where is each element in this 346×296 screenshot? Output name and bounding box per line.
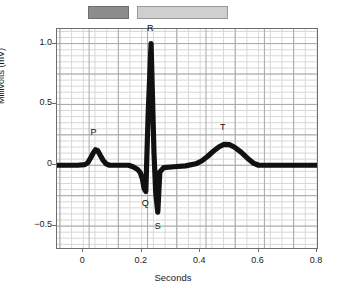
wave-label-p: P	[91, 127, 97, 137]
dark-phase-bar	[88, 6, 129, 19]
y-tick-mark	[52, 43, 56, 44]
y-tick-label: 0	[22, 158, 52, 168]
ecg-plot-svg	[57, 29, 317, 248]
wave-label-r: R	[147, 23, 154, 33]
x-tick-mark	[199, 248, 200, 252]
y-tick-mark	[52, 103, 56, 104]
light-phase-bar	[137, 6, 228, 19]
y-tick-mark	[52, 225, 56, 226]
y-tick-label: −0.5	[22, 219, 52, 229]
ecg-figure: 1.00.50−0.500.20.40.60.8 PQRST Millivolt…	[0, 0, 346, 296]
x-axis-label: Seconds	[0, 272, 346, 283]
y-tick-label: 0.5	[22, 97, 52, 107]
wave-label-q: Q	[142, 198, 149, 208]
plot-area	[56, 28, 318, 249]
x-tick-label: 0.4	[184, 255, 214, 265]
x-tick-label: 0.2	[126, 255, 156, 265]
x-tick-mark	[82, 248, 83, 252]
y-axis-label: Millivolts (mV)	[0, 48, 6, 104]
wave-label-t: T	[220, 122, 226, 132]
x-tick-label: 0	[67, 255, 97, 265]
x-tick-mark	[141, 248, 142, 252]
x-tick-mark	[316, 248, 317, 252]
wave-label-s: S	[155, 221, 161, 231]
grid-minor	[57, 29, 317, 248]
x-tick-label: 0.8	[301, 255, 331, 265]
y-tick-label: 1.0	[22, 37, 52, 47]
x-tick-label: 0.6	[243, 255, 273, 265]
x-tick-mark	[258, 248, 259, 252]
y-tick-mark	[52, 164, 56, 165]
